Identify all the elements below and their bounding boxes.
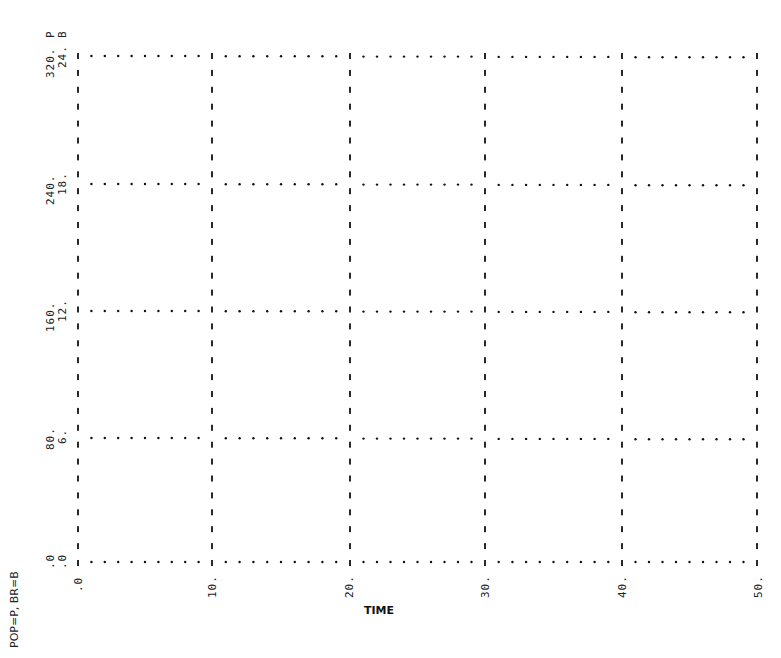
grid-row-1 (90, 183, 745, 187)
grid-col-5 (756, 53, 758, 566)
br-tick-18: 18. (56, 172, 69, 195)
grid-col-1 (211, 53, 213, 566)
x-tick-30: 30. (479, 575, 492, 598)
br-tick-12: 12. (56, 299, 69, 322)
x-tick-50: 50. (752, 575, 765, 598)
x-axis-title: TIME (364, 604, 394, 617)
chart-plot-area (0, 0, 781, 658)
br-tick-0: .0 (56, 554, 69, 569)
grid-row-2 (90, 310, 745, 314)
grid-col-0 (77, 53, 79, 566)
br-tick-24: 24. (56, 45, 69, 68)
x-tick-20: 20. (343, 575, 356, 598)
br-symbol: B (56, 30, 69, 38)
grid-col-2 (349, 53, 351, 566)
grid-row-0 (90, 55, 745, 59)
legend-label: POP=P, BR=B (8, 571, 21, 648)
x-tick-10: 10. (206, 575, 219, 598)
grid-col-4 (621, 53, 623, 566)
grid-row-4 (90, 561, 745, 563)
x-tick-40: 40. (616, 575, 629, 598)
grid-col-3 (484, 53, 486, 566)
x-tick-0: .0 (72, 577, 85, 592)
grid-row-3 (90, 437, 745, 441)
br-tick-6: 6. (56, 429, 69, 444)
